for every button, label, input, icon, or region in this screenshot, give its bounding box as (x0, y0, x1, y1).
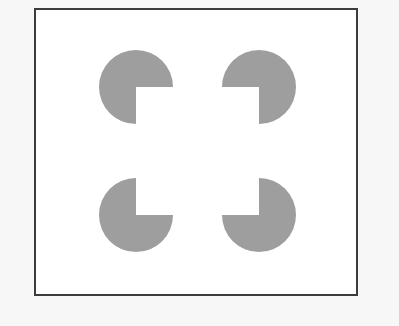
figure-canvas (0, 0, 399, 326)
figure-border (35, 9, 357, 295)
kanizsa-square-figure: Four gray pac-man shapes arranged at the… (0, 0, 399, 326)
